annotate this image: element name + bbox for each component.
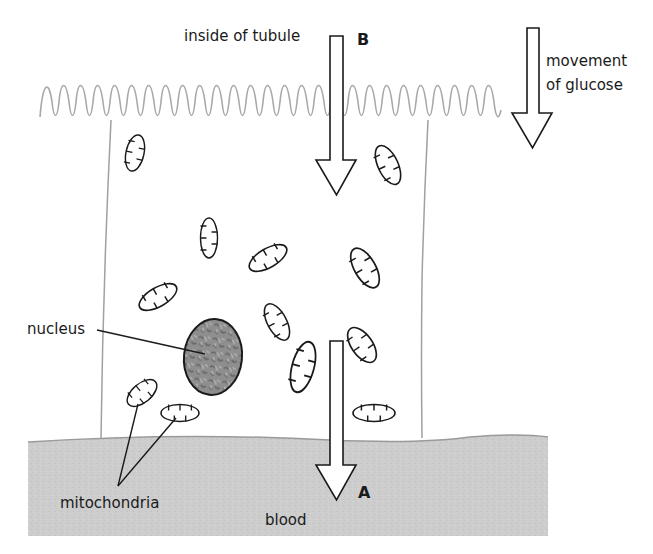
- arrow-a: [316, 341, 356, 500]
- mitochondrion: [342, 323, 382, 368]
- mitochondrion: [345, 244, 385, 293]
- mitochondrion: [122, 374, 161, 411]
- nucleus-label: nucleus: [27, 320, 85, 338]
- movement-label-line1: movement: [546, 52, 627, 70]
- mitochondrion: [286, 339, 321, 395]
- cell-wall-right: [422, 120, 429, 438]
- mitochondrion: [201, 218, 218, 258]
- kidney-tubule-cell-diagram: inside of tubule B movement of glucose n…: [0, 0, 653, 554]
- mitochondrion: [161, 405, 199, 422]
- mitochondrion: [245, 239, 291, 276]
- mitochondrion: [259, 300, 295, 344]
- mitochondria-label: mitochondria: [60, 494, 159, 512]
- mitochondrion: [122, 133, 147, 173]
- mitochondrion: [353, 405, 395, 422]
- blood-label: blood: [265, 511, 307, 529]
- point-a-label: A: [358, 483, 371, 502]
- inside-tubule-label: inside of tubule: [184, 27, 300, 45]
- nucleus: [180, 316, 246, 398]
- arrow-b: [316, 36, 356, 195]
- mitochondrion: [135, 278, 181, 315]
- mitochondrion: [370, 142, 406, 189]
- cell-wall-left: [101, 120, 111, 438]
- point-b-label: B: [357, 30, 369, 49]
- movement-label-line2: of glucose: [546, 76, 623, 94]
- microvilli: [40, 86, 501, 118]
